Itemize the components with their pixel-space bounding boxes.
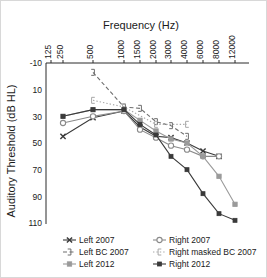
x-tick-label: 12000 bbox=[227, 35, 237, 59]
data-point bbox=[60, 120, 65, 125]
y-tick-label: 90 bbox=[33, 192, 43, 202]
data-point bbox=[217, 212, 221, 216]
data-point bbox=[233, 202, 237, 206]
data-point bbox=[91, 108, 95, 112]
data-point bbox=[217, 174, 221, 178]
data-point bbox=[184, 147, 189, 152]
x-tick-label: 500 bbox=[85, 45, 95, 59]
legend-label: Right masked BC 2007 bbox=[169, 247, 257, 257]
y-tick-label: -10 bbox=[30, 58, 43, 68]
legend-label: Right 2007 bbox=[169, 235, 210, 245]
data-point bbox=[216, 154, 221, 159]
audiogram-chart: Frequency (Hz) Auditory Threshold (dB HL… bbox=[1, 1, 267, 278]
x-tick-label: 8000 bbox=[211, 40, 221, 59]
data-point bbox=[185, 168, 189, 172]
data-point bbox=[168, 143, 173, 148]
data-point bbox=[233, 218, 237, 222]
x-tick-label: 3000 bbox=[163, 40, 173, 59]
x-tick-label: 2000 bbox=[148, 40, 158, 59]
legend-swatch-marker bbox=[158, 262, 162, 266]
data-point bbox=[138, 122, 142, 126]
legend-entry: Left BC 2007 bbox=[63, 247, 129, 257]
y-tick-label: 10 bbox=[33, 85, 43, 95]
y-tick-label: 70 bbox=[33, 165, 43, 175]
x-tick-label: 6000 bbox=[195, 40, 205, 59]
data-point bbox=[154, 129, 158, 133]
y-tick-labels: -101030507090110 bbox=[28, 58, 42, 228]
legend-swatch-marker bbox=[67, 262, 71, 266]
data-point bbox=[122, 108, 126, 112]
legend-entry: Right masked BC 2007 bbox=[153, 247, 257, 257]
series-line bbox=[63, 110, 235, 205]
x-axis-title: Frequency (Hz) bbox=[103, 19, 179, 31]
y-tick-label: 110 bbox=[28, 218, 42, 228]
y-tick-label: 50 bbox=[33, 138, 43, 148]
data-point bbox=[201, 154, 205, 158]
x-tick-label: 125 bbox=[43, 45, 53, 59]
data-point bbox=[169, 154, 173, 158]
x-tick-label: 4000 bbox=[179, 40, 189, 59]
y-tick-label: 30 bbox=[33, 112, 43, 122]
audiogram-figure: Frequency (Hz) Auditory Threshold (dB HL… bbox=[0, 0, 267, 278]
axis-lines bbox=[46, 63, 249, 224]
data-point bbox=[137, 127, 142, 132]
data-point bbox=[200, 148, 205, 153]
legend-entry: Left 2007 bbox=[63, 235, 115, 245]
legend-label: Right 2012 bbox=[169, 259, 210, 269]
data-point bbox=[169, 137, 173, 141]
x-tick-label: 250 bbox=[55, 45, 65, 59]
legend-entry: Right 2012 bbox=[153, 259, 210, 269]
legend-swatch-marker bbox=[157, 237, 162, 242]
x-tick-label: 1500 bbox=[132, 40, 142, 59]
y-axis-title: Auditory Threshold (dB HL) bbox=[5, 84, 17, 217]
x-tick-label: 1000 bbox=[116, 40, 126, 59]
data-point bbox=[60, 134, 65, 139]
y-axis-title-group: Auditory Threshold (dB HL) bbox=[5, 84, 17, 217]
legend-swatch-marker bbox=[68, 249, 71, 255]
legend-label: Left BC 2007 bbox=[79, 247, 129, 257]
data-point bbox=[185, 141, 189, 145]
data-point bbox=[138, 118, 142, 122]
legend-label: Left 2007 bbox=[79, 235, 115, 245]
x-tick-labels: 1252505001000150020003000400060008000120… bbox=[43, 35, 237, 63]
series-4 bbox=[61, 107, 237, 206]
data-point bbox=[186, 121, 189, 127]
legend: Left 2007Right 2007Left BC 2007Right mas… bbox=[63, 235, 257, 269]
data-point bbox=[91, 69, 94, 75]
x-axis-title-group: Frequency (Hz) bbox=[103, 19, 179, 31]
data-series-group bbox=[60, 69, 237, 222]
data-point bbox=[90, 114, 95, 119]
data-point bbox=[61, 114, 65, 118]
legend-label: Left 2012 bbox=[79, 259, 115, 269]
legend-entry: Right 2007 bbox=[153, 235, 210, 245]
data-point bbox=[201, 192, 205, 196]
legend-entry: Left 2012 bbox=[63, 259, 115, 269]
data-point bbox=[154, 133, 158, 137]
